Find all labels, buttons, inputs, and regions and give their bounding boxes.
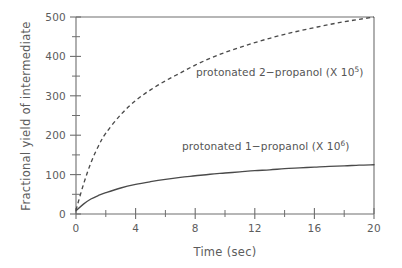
chart-figure: 0 100 200 300 400 500 0 4 8 12 16 20 Tim… xyxy=(0,0,402,268)
y-tick-label-0: 0 xyxy=(59,208,66,220)
series-label-1-propanol: protonated 1−propanol (X 106) xyxy=(182,139,350,152)
chart-plot-area: 0 100 200 300 400 500 0 4 8 12 16 20 Tim… xyxy=(0,0,402,268)
series-label-2-propanol: protonated 2−propanol (X 105) xyxy=(196,65,364,78)
y-tick-label-200: 200 xyxy=(45,129,66,141)
y-axis-tick-labels: 0 100 200 300 400 500 xyxy=(45,11,66,220)
x-axis-tick-labels: 0 4 8 12 16 20 xyxy=(73,222,381,234)
x-tick-label-16: 16 xyxy=(308,222,322,234)
y-tick-label-400: 400 xyxy=(45,50,66,62)
series-line-2-propanol xyxy=(76,17,374,210)
y-tick-label-100: 100 xyxy=(45,169,66,181)
x-tick-label-8: 8 xyxy=(192,222,199,234)
y-tick-label-300: 300 xyxy=(45,90,66,102)
x-tick-label-12: 12 xyxy=(248,222,262,234)
x-tick-label-20: 20 xyxy=(367,222,381,234)
x-tick-label-4: 4 xyxy=(132,222,139,234)
y-axis-title: Fractional yield of intermediate xyxy=(19,21,33,210)
y-tick-label-500: 500 xyxy=(45,11,66,23)
x-tick-label-0: 0 xyxy=(73,222,80,234)
x-axis-title: Time (sec) xyxy=(192,245,256,259)
plot-frame xyxy=(76,17,374,214)
series-line-1-propanol xyxy=(76,165,374,211)
